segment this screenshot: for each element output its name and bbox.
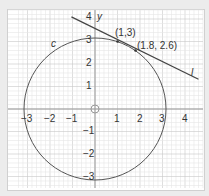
grid bbox=[8, 10, 203, 188]
y-tick-neg2: −2 bbox=[83, 148, 95, 159]
y-tick-neg3: −3 bbox=[83, 171, 95, 182]
y-axis-label: y bbox=[96, 11, 103, 22]
y-tick-neg1: −1 bbox=[83, 125, 95, 136]
y-tick-2: 2 bbox=[86, 57, 92, 68]
x-tick-2: 2 bbox=[137, 113, 143, 124]
x-tick-3: 3 bbox=[159, 113, 165, 124]
x-tick-4: 4 bbox=[182, 113, 188, 124]
y-tick-3: 3 bbox=[86, 34, 92, 45]
x-tick-neg2: −2 bbox=[44, 113, 56, 124]
point-2-label: (1.8, 2.6) bbox=[137, 40, 177, 51]
point-1-3 bbox=[116, 40, 119, 43]
circle-label: c bbox=[51, 38, 56, 49]
x-tick-1: 1 bbox=[114, 113, 120, 124]
y-tick-1: 1 bbox=[86, 80, 92, 91]
x-tick-neg3: −3 bbox=[21, 113, 33, 124]
x-tick-neg1: −1 bbox=[66, 113, 78, 124]
y-tick-4: 4 bbox=[86, 11, 92, 22]
point-1-label: (1,3) bbox=[115, 27, 136, 38]
plot-svg: 4 y 3 2 1 −1 −2 −3 −3 −2 −1 1 2 3 4 (1,3… bbox=[0, 0, 209, 196]
